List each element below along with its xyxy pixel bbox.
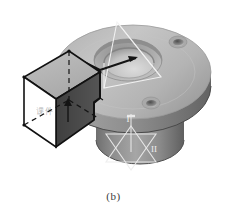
vertex-dot: [67, 49, 70, 52]
bolt-hole: [169, 36, 187, 48]
isometric-part-drawing: I II: [0, 0, 227, 204]
bolt-hole: [142, 97, 160, 109]
label-plane-two: II: [151, 144, 157, 154]
figure-container: I II 课件 (b): [0, 0, 227, 204]
vertex-dot: [98, 70, 101, 73]
bolt-hole-bore: [146, 100, 157, 107]
vertex-dot: [22, 75, 25, 78]
vertex-dot: [22, 123, 25, 126]
bolt-hole-bore: [173, 39, 184, 46]
figure-caption: (b): [0, 190, 227, 202]
label-plane-one: I: [127, 114, 130, 124]
